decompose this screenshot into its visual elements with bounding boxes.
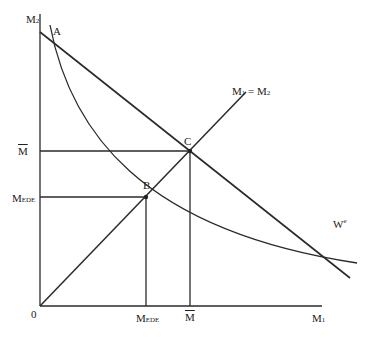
curve-label: We bbox=[333, 218, 347, 230]
mede-y-label: MEDE bbox=[12, 193, 35, 204]
mede-x-label: MEDE bbox=[136, 313, 159, 324]
x-axis-label: M1 bbox=[312, 313, 325, 324]
y-axis-label: M2 bbox=[26, 14, 39, 25]
diagram: M2 A C B M1 = M2 We M MEDE 0 MEDE M M1 bbox=[0, 0, 372, 337]
point-c bbox=[188, 149, 192, 153]
point-b bbox=[144, 195, 148, 199]
indifference-curve bbox=[50, 25, 357, 263]
budget-line bbox=[40, 32, 350, 278]
point-b-label: B bbox=[143, 180, 150, 191]
diagram-lines bbox=[0, 0, 372, 337]
point-c-label: C bbox=[184, 136, 191, 147]
equality-line-label: M1 = M2 bbox=[232, 86, 270, 97]
mbar-x-label: M bbox=[185, 312, 195, 323]
point-a-label: A bbox=[53, 26, 61, 37]
mbar-y-label: M bbox=[18, 146, 28, 157]
origin-label: 0 bbox=[31, 309, 37, 320]
equality-line bbox=[40, 92, 246, 306]
